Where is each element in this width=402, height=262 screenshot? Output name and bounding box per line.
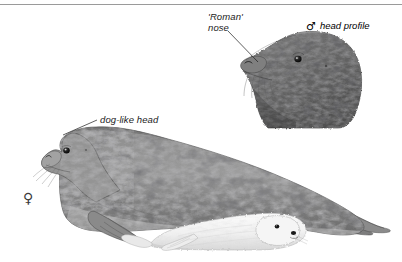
leader-line-roman-nose — [228, 31, 258, 62]
pup-eye — [275, 224, 280, 228]
female-eye — [63, 148, 70, 154]
illustration-plate: 'Roman' nose ♂head profile dog-like head… — [0, 0, 402, 262]
label-roman-nose-line2: nose — [208, 22, 243, 33]
male-symbol-icon: ♂ — [306, 20, 316, 33]
seal-illustration-artwork — [0, 0, 402, 262]
label-roman-nose-line1: 'Roman' — [208, 11, 243, 22]
female-head — [33, 126, 134, 210]
label-roman-nose: 'Roman' nose — [208, 11, 243, 33]
male-eye — [294, 56, 301, 62]
label-dog-like-head: dog-like head — [100, 114, 158, 125]
pup-nose — [291, 231, 296, 235]
female-symbol-icon: ♀ — [23, 190, 33, 206]
leader-lines — [63, 31, 258, 135]
label-male-head-profile: ♂head profile — [306, 15, 370, 33]
pup-rear-flipper — [121, 235, 152, 248]
label-head-profile-text: head profile — [316, 20, 370, 31]
figure-male-head-profile — [238, 26, 368, 132]
